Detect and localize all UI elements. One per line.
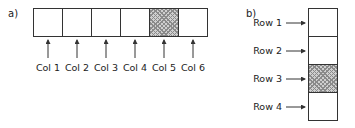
column-arrow-icons xyxy=(48,40,193,58)
arrows-layer xyxy=(0,0,355,128)
row-arrow-icons xyxy=(286,23,305,107)
